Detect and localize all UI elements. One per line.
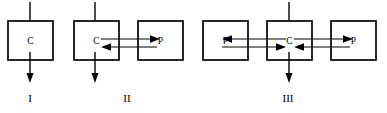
g3-box-p-right: P bbox=[331, 21, 376, 60]
g2-box-c: C bbox=[74, 21, 119, 60]
g2-box-p-label: P bbox=[158, 36, 163, 46]
g1-box-c-label: C bbox=[27, 36, 33, 46]
diagram-group-1: C I bbox=[8, 2, 53, 104]
g2-box-c-label: C bbox=[93, 36, 99, 46]
diagram-group-3: P C P bbox=[203, 2, 376, 104]
diagram-container: C I C P bbox=[0, 0, 387, 113]
g3-box-c-label: C bbox=[286, 36, 292, 46]
g3-box-p-left: P bbox=[203, 21, 248, 60]
group-label-1: I bbox=[28, 92, 32, 104]
group-label-3: III bbox=[283, 92, 294, 104]
diagram-group-2: C P II bbox=[74, 2, 183, 104]
g3-box-p-right-label: P bbox=[351, 36, 356, 46]
g2-box-p: P bbox=[138, 21, 183, 60]
diagram-canvas: C I C P bbox=[0, 0, 387, 113]
group-label-2: II bbox=[123, 92, 131, 104]
